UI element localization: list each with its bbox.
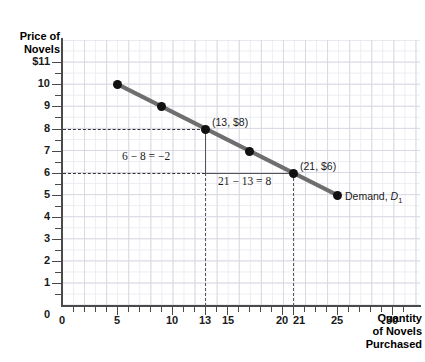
y-tick-3: [52, 239, 62, 240]
y-tick-label-7: 7: [44, 144, 50, 156]
x-tick-17: [249, 306, 250, 312]
data-point-5-10: [113, 80, 122, 89]
data-point-25-5: [333, 191, 342, 200]
data-point-17-7: [245, 147, 254, 156]
x-tick-14: [216, 306, 217, 312]
y-tick-11: [52, 62, 62, 63]
y-tick-9: [52, 106, 62, 107]
y-tick-8-5: [55, 117, 62, 118]
y-tick-3-5: [55, 228, 62, 229]
y-tick-label-9: 9: [44, 99, 50, 111]
x-tick-12: [194, 306, 195, 312]
y-axis-title-line2: Novels: [8, 43, 60, 56]
annotation-point-13-8: (13, $8): [212, 116, 248, 128]
x-tick-3: [95, 306, 96, 312]
y-tick-4: [52, 217, 62, 218]
y-tick-label-8: 8: [44, 122, 50, 134]
x-tick-19: [271, 306, 272, 312]
annotation-rise: 6 − 8 = −2: [122, 150, 170, 162]
x-tick-label-0: 0: [59, 314, 65, 326]
reference-line-price-8: [63, 129, 205, 130]
x-tick-26: [348, 306, 349, 312]
x-tick-9: [161, 306, 162, 312]
data-point-13-8: [201, 125, 210, 134]
demand-curve-chart: $11 10 9 8 7 6 5 4 3 2 1 0 0 5 10 13 15 …: [0, 0, 425, 362]
x-tick-6: [128, 306, 129, 312]
y-tick-label-4: 4: [44, 210, 50, 222]
y-tick-6: [52, 173, 62, 174]
data-point-21-6: [289, 169, 298, 178]
y-tick-2: [52, 261, 62, 262]
y-tick-8: [52, 129, 62, 130]
y-tick-9-5: [55, 95, 62, 96]
series-label-subscript: 1: [398, 196, 402, 205]
x-tick-18: [260, 306, 261, 312]
y-tick-5: [52, 195, 62, 196]
slope-rise-segment: [205, 129, 206, 174]
y-tick-4-5: [55, 206, 62, 207]
annotation-point-21-6: (21, $6): [300, 160, 336, 172]
x-tick-7: [139, 306, 140, 312]
x-tick-1: [73, 306, 74, 312]
x-tick-16: [238, 306, 239, 312]
x-tick-label-25: 25: [331, 314, 343, 326]
slope-run-segment: [205, 173, 294, 174]
y-tick-10-5: [55, 73, 62, 74]
x-tick-8: [150, 306, 151, 312]
y-axis-title-line1: Price of: [8, 30, 60, 43]
x-axis-title-line3: Purchased: [356, 338, 422, 351]
y-tick-label-1: 1: [44, 276, 50, 288]
x-tick-2: [84, 306, 85, 312]
y-tick-label-0: 0: [44, 308, 50, 320]
x-tick-label-15: 15: [222, 314, 234, 326]
y-tick-7: [52, 151, 62, 152]
x-tick-22: [304, 306, 305, 312]
series-label-word: Demand,: [345, 190, 391, 202]
y-tick-6-5: [55, 162, 62, 163]
y-tick-1-5: [55, 272, 62, 273]
x-tick-label-21: 21: [293, 314, 305, 326]
x-tick-label-20: 20: [276, 314, 288, 326]
series-label-demand: Demand, D1: [345, 190, 402, 205]
x-tick-label-13: 13: [199, 314, 211, 326]
y-tick-2-5: [55, 250, 62, 251]
y-tick-label-10: 10: [38, 77, 50, 89]
x-axis-line: [61, 305, 421, 307]
y-tick-label-5: 5: [44, 188, 50, 200]
x-tick-11: [183, 306, 184, 312]
x-tick-label-10: 10: [166, 314, 178, 326]
x-tick-label-5: 5: [114, 314, 120, 326]
y-tick-label-6: 6: [44, 166, 50, 178]
y-tick-7-5: [55, 140, 62, 141]
y-tick-label-3: 3: [44, 232, 50, 244]
x-axis-title-line2: of Novels: [356, 325, 422, 338]
series-label-symbol: D: [391, 190, 399, 202]
x-tick-23: [315, 306, 316, 312]
reference-line-qty-21: [293, 173, 294, 306]
y-axis-title: Price of Novels: [8, 30, 60, 56]
annotation-run: 21 − 13 = 8: [218, 175, 271, 187]
x-axis-title-line1: Quantity: [356, 312, 422, 325]
reference-line-qty-13: [205, 173, 206, 306]
x-axis-title: Quantity of Novels Purchased: [356, 312, 422, 351]
y-tick-1: [52, 283, 62, 284]
data-point-9-9: [157, 102, 166, 111]
y-tick-5-5: [55, 184, 62, 185]
y-tick-10: [52, 84, 62, 85]
y-tick-0-5: [55, 294, 62, 295]
reference-line-price-6: [63, 173, 205, 174]
x-tick-24: [326, 306, 327, 312]
y-tick-label-2: 2: [44, 254, 50, 266]
y-tick-label-11: $11: [32, 55, 50, 67]
x-tick-4: [106, 306, 107, 312]
